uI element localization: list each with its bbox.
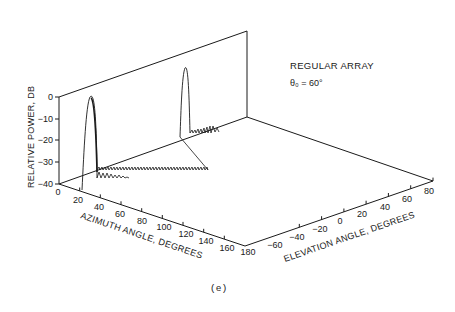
main-lobe-inner [91,98,97,172]
svg-text:−40: −40 [289,232,304,242]
chart-subtitle: θ₀ = 60° [290,78,323,88]
svg-text:140: 140 [198,236,213,246]
elevation-axis [277,181,433,235]
svg-text:−10: −10 [38,114,53,124]
azimuth-cut-sidelobes [97,172,129,178]
svg-text:0: 0 [337,216,342,226]
svg-text:−60: −60 [267,240,282,250]
svg-text:−20: −20 [38,135,53,145]
svg-text:40: 40 [94,202,104,212]
svg-text:0: 0 [48,92,53,102]
svg-text:120: 120 [178,229,193,239]
svg-text:40: 40 [380,202,390,212]
svg-text:60: 60 [115,209,125,219]
z-ticks [55,97,59,184]
svg-text:180: 180 [240,247,255,257]
main-lobe-curve [82,96,97,190]
back-plane-floor-edge [59,117,247,184]
svg-text:−30: −30 [38,157,53,167]
svg-text:20: 20 [73,195,83,205]
z-tick-labels: 0 −10 −20 −30 −40 [38,92,53,189]
svg-text:−20: −20 [312,224,327,234]
chart-3d-plot: 0 −10 −20 −30 −40 RELATIVE POWER, DB 0 2… [0,0,455,312]
azimuth-tick-labels: 0 20 40 60 80 100 120 140 160 180 [55,187,255,257]
svg-text:60: 60 [402,194,412,204]
svg-text:−40: −40 [38,179,53,189]
figure-caption: (e) [210,283,227,294]
grating-lobe-sidelobes [190,126,219,133]
back-plane-top-edge [59,31,247,97]
svg-text:20: 20 [357,209,367,219]
grating-lobe-curve [180,68,190,137]
chart-title: REGULAR ARRAY [290,60,374,71]
svg-text:100: 100 [156,222,171,232]
svg-text:160: 160 [219,243,234,253]
floor-back-edge [247,117,433,181]
svg-text:0: 0 [55,187,60,197]
svg-text:80: 80 [424,186,434,196]
z-axis-label: RELATIVE POWER, DB [26,86,36,188]
svg-text:80: 80 [137,216,147,226]
